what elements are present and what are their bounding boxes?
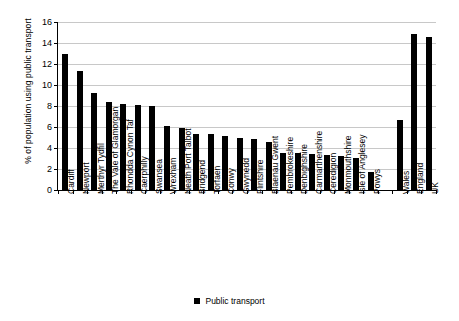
y-tick-label: 10 (42, 80, 52, 90)
x-tick-label: Rhondda Cynon Taf (126, 119, 135, 194)
legend: Public transport (0, 296, 459, 306)
x-tick-label: Pembrokeshire (286, 137, 295, 194)
y-tick-label: 12 (42, 59, 52, 69)
x-axis-labels: CardiffNewportMerthyr TydfilThe Vale of … (57, 194, 435, 286)
x-tick-label: Flintshire (256, 160, 265, 194)
y-tick-label: 8 (47, 101, 52, 111)
bar-slot (58, 22, 73, 190)
y-tick-label: 4 (47, 143, 52, 153)
bar-chart: % of population using public transport 0… (0, 0, 459, 321)
x-tick-label: Powys (373, 169, 382, 194)
bar-slot (392, 22, 407, 190)
x-tick-label: Ceredigion (329, 153, 338, 194)
legend-swatch-public-transport (194, 298, 200, 304)
y-tick-label: 16 (42, 17, 52, 27)
x-tick-label: UK (431, 182, 440, 194)
x-tick-label: Denbighshire (300, 144, 309, 194)
x-tick-label: England (416, 163, 425, 194)
x-tick-label: Conwy (227, 168, 236, 194)
y-tick-label: 2 (47, 164, 52, 174)
x-tick-label: The Vale of Glamorgan (111, 107, 120, 194)
x-tick-label: Blaenau Gwent (271, 136, 280, 194)
x-tick-label: Monmouthshire (344, 135, 353, 194)
bar-slot (378, 22, 393, 190)
x-tick-label: Wales (402, 171, 411, 194)
x-tick-label: Merthyr Tydfil (97, 143, 106, 194)
x-tick-label: Isle of Anglesey (358, 134, 367, 194)
y-tick-label: 14 (42, 38, 52, 48)
y-tick-label: 6 (47, 122, 52, 132)
y-axis-title: % of population using public transport (23, 1, 33, 181)
x-tick-label: Torfaen (213, 166, 222, 194)
x-tick-label: Neath Port Talbot (184, 128, 193, 194)
legend-label-public-transport: Public transport (205, 296, 264, 306)
x-tick-label: Bridgend (198, 160, 207, 194)
x-tick-label: Swansea (155, 159, 164, 194)
x-tick-label: Carmarthenshire (315, 131, 324, 194)
bar (426, 37, 432, 190)
x-tick-label: Gwynedd (242, 158, 251, 194)
y-tick-label: 0 (47, 185, 52, 195)
x-tick-label: Cardiff (67, 169, 76, 194)
x-tick-label: Caerphilly (140, 156, 149, 194)
x-tick-label: Wrexham (169, 158, 178, 194)
x-tick-label: Newport (82, 162, 91, 194)
